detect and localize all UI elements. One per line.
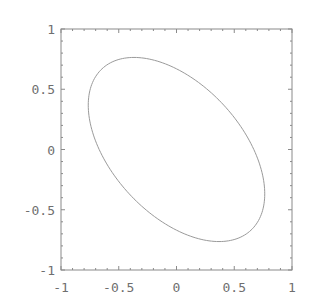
y-axis-tick-labels: 10.50-0.5-1 — [24, 22, 55, 278]
y-tick-label: -0.5 — [24, 203, 55, 218]
plot-frame — [61, 29, 292, 270]
y-tick-label: 0.5 — [32, 82, 55, 97]
ellipse-curve — [88, 57, 264, 241]
y-tick-label: 0 — [47, 143, 55, 158]
y-tick-label: 1 — [47, 22, 55, 37]
x-tick-label: 0.5 — [223, 280, 246, 295]
x-axis-tick-labels: -1-0.500.51 — [53, 280, 296, 295]
tick-marks — [61, 29, 292, 270]
x-tick-label: -0.5 — [103, 280, 134, 295]
ellipse-plot: -1-0.500.51 10.50-0.5-1 — [0, 0, 312, 302]
y-tick-label: -1 — [39, 263, 55, 278]
x-tick-label: 1 — [288, 280, 296, 295]
x-tick-label: -1 — [53, 280, 69, 295]
x-tick-label: 0 — [173, 280, 181, 295]
